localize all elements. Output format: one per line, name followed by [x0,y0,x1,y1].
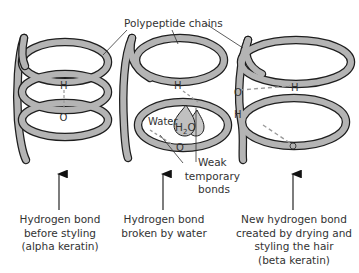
hydrogen-bond-line [240,86,290,90]
caption-beta-keratin: New hydrogen bond created by drying and … [232,213,356,267]
caption-line: before styling [14,227,106,241]
atom-o-label: O [60,112,68,123]
atom-h-label: H [291,82,299,93]
atom-h-label: H [174,80,182,91]
caption-line: styling the hair [232,240,356,254]
polypeptide-chains-label: Polypeptide chains [124,17,223,29]
caption-line: Hydrogen bond [118,213,210,227]
atom-o-label: O [176,142,184,153]
caption-broken-by-water: Hydrogen bond broken by water [118,213,210,240]
caption-line: (beta keratin) [232,254,356,268]
atom-o-label: O [234,87,242,98]
beta-helix-coil [239,40,351,160]
caption-line: created by drying and [232,227,356,241]
caption-line: broken by water [118,227,210,241]
atom-h-label: H [60,80,68,91]
caption-alpha-keratin: Hydrogen bond before styling (alpha kera… [14,213,106,254]
weak-bonds-label: Weak temporary bonds [185,156,244,195]
caption-line: (alpha keratin) [14,240,106,254]
broken-helix-coil [123,38,228,158]
water-label: Water [148,116,178,127]
atom-h-label: H [234,109,242,120]
caption-line: New hydrogen bond [232,213,356,227]
alpha-helix-coil [17,38,108,160]
caption-line: Hydrogen bond [14,213,106,227]
